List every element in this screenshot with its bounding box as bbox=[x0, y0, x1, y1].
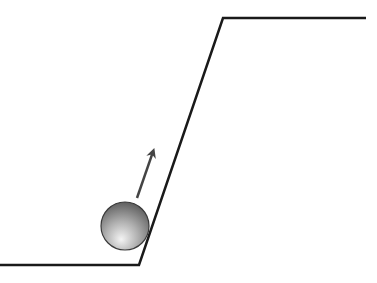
ramp-diagram bbox=[0, 0, 377, 283]
ramp-surface bbox=[0, 18, 366, 265]
velocity-arrow-icon bbox=[137, 152, 153, 198]
ball bbox=[101, 202, 149, 250]
